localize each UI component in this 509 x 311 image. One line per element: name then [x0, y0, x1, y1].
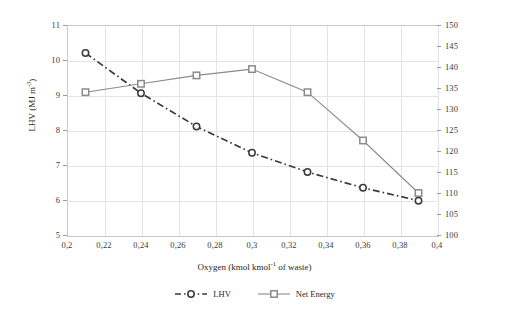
gridline-horizontal: [68, 131, 438, 132]
x-axis-tick-label: 0,36: [355, 240, 370, 250]
y-axis-right-tick-mark: [437, 109, 441, 110]
y-axis-left-tick-mark: [63, 130, 67, 131]
y-axis-right-tick-mark: [437, 172, 441, 173]
y-axis-right-tick-mark: [437, 67, 441, 68]
gridline-horizontal: [68, 61, 438, 62]
y-axis-right-tick-label: 145: [445, 41, 475, 51]
legend-item-lhv[interactable]: LHV: [174, 288, 230, 300]
y-axis-left-tick-mark: [63, 165, 67, 166]
legend-item-net-energy[interactable]: Net Energy: [257, 288, 335, 300]
y-axis-right-tick-mark: [437, 214, 441, 215]
plot-area: [67, 25, 439, 237]
x-axis-tick-label: 0,3: [247, 240, 258, 250]
legend-label: LHV: [213, 289, 230, 299]
x-axis-tick-label: 0,32: [281, 240, 296, 250]
y-axis-right-tick-label: 125: [445, 125, 475, 135]
y-axis-left-tick-label: 7: [30, 160, 60, 170]
y-axis-left-tick-label: 9: [30, 90, 60, 100]
y-axis-right-tick-label: 100: [445, 230, 475, 240]
y-axis-right-tick-mark: [437, 151, 441, 152]
y-axis-left-tick-label: 11: [30, 20, 60, 30]
y-axis-left-tick-mark: [63, 95, 67, 96]
x-axis-title: Oxygen (kmol kmol-1 of waste): [0, 262, 509, 272]
y-axis-left-tick-mark: [63, 200, 67, 201]
y-axis-left-tick-label: 8: [30, 125, 60, 135]
y-axis-left-tick-label: 5: [30, 230, 60, 240]
y-axis-right-tick-label: 110: [445, 188, 475, 198]
x-axis-tick-label: 0,38: [392, 240, 407, 250]
y-axis-right-tick-label: 120: [445, 146, 475, 156]
x-axis-tick-label: 0,26: [170, 240, 185, 250]
chart-figure: LHV (MJ m-3) Net Energy (MJ kmol-1) Oxyg…: [0, 0, 509, 311]
gridline-horizontal: [68, 96, 438, 97]
x-axis-tick-label: 0,4: [432, 240, 443, 250]
y-axis-left-tick-mark: [63, 60, 67, 61]
y-axis-right-tick-label: 140: [445, 62, 475, 72]
y-axis-right-tick-mark: [437, 25, 441, 26]
superscript: -3: [25, 82, 32, 87]
y-axis-right-tick-mark: [437, 235, 441, 236]
gridline-horizontal: [68, 166, 438, 167]
x-axis-tick-label: 0,34: [318, 240, 333, 250]
x-axis-tick-label: 0,22: [96, 240, 111, 250]
y-axis-right-tick-mark: [437, 46, 441, 47]
y-axis-right-tick-mark: [437, 130, 441, 131]
y-axis-right-tick-mark: [437, 88, 441, 89]
x-axis-tick-label: 0,2: [62, 240, 73, 250]
y-axis-right-tick-label: 150: [445, 20, 475, 30]
y-axis-left-tick-label: 10: [30, 55, 60, 65]
y-axis-left-tick-mark: [63, 25, 67, 26]
legend-label: Net Energy: [296, 289, 335, 299]
y-axis-right-tick-mark: [437, 193, 441, 194]
gridline-vertical: [438, 26, 439, 236]
y-axis-right-tick-label: 130: [445, 104, 475, 114]
y-axis-right-tick-label: 105: [445, 209, 475, 219]
y-axis-right-tick-label: 115: [445, 167, 475, 177]
x-axis-tick-label: 0,28: [207, 240, 222, 250]
y-axis-left-tick-mark: [63, 235, 67, 236]
legend-swatch-circle-icon: [174, 288, 208, 300]
superscript: -1: [271, 260, 276, 267]
chart-legend: LHVNet Energy: [0, 288, 509, 300]
legend-swatch-square-icon: [257, 288, 291, 300]
gridline-horizontal: [68, 201, 438, 202]
x-axis-tick-label: 0,24: [133, 240, 148, 250]
y-axis-right-tick-label: 135: [445, 83, 475, 93]
y-axis-left-tick-label: 6: [30, 195, 60, 205]
